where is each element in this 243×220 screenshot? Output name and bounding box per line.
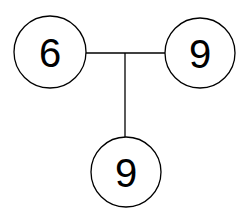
node-right: 9: [165, 18, 235, 88]
node-left-label: 6: [39, 31, 61, 75]
tree-diagram: 6 9 9: [0, 0, 243, 220]
node-bottom: 9: [91, 137, 161, 207]
node-bottom-label: 9: [115, 151, 137, 195]
node-right-label: 9: [189, 32, 211, 76]
node-left: 6: [14, 16, 86, 88]
